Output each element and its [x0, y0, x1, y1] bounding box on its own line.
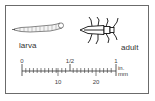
adult-label: adult	[121, 44, 138, 52]
mm-tick-10: 10	[55, 79, 62, 85]
inch-tick-1: 1	[114, 58, 117, 64]
mm-tick-20: 20	[93, 79, 100, 85]
larva-label: larva	[19, 42, 36, 50]
inch-tick-half: 1/2	[66, 58, 74, 64]
adult-illustration	[80, 17, 118, 44]
inch-tick-0: 0	[20, 58, 23, 64]
mm-unit-label: mm	[118, 71, 128, 77]
scale-ruler	[22, 64, 116, 76]
larva-illustration	[12, 23, 64, 32]
